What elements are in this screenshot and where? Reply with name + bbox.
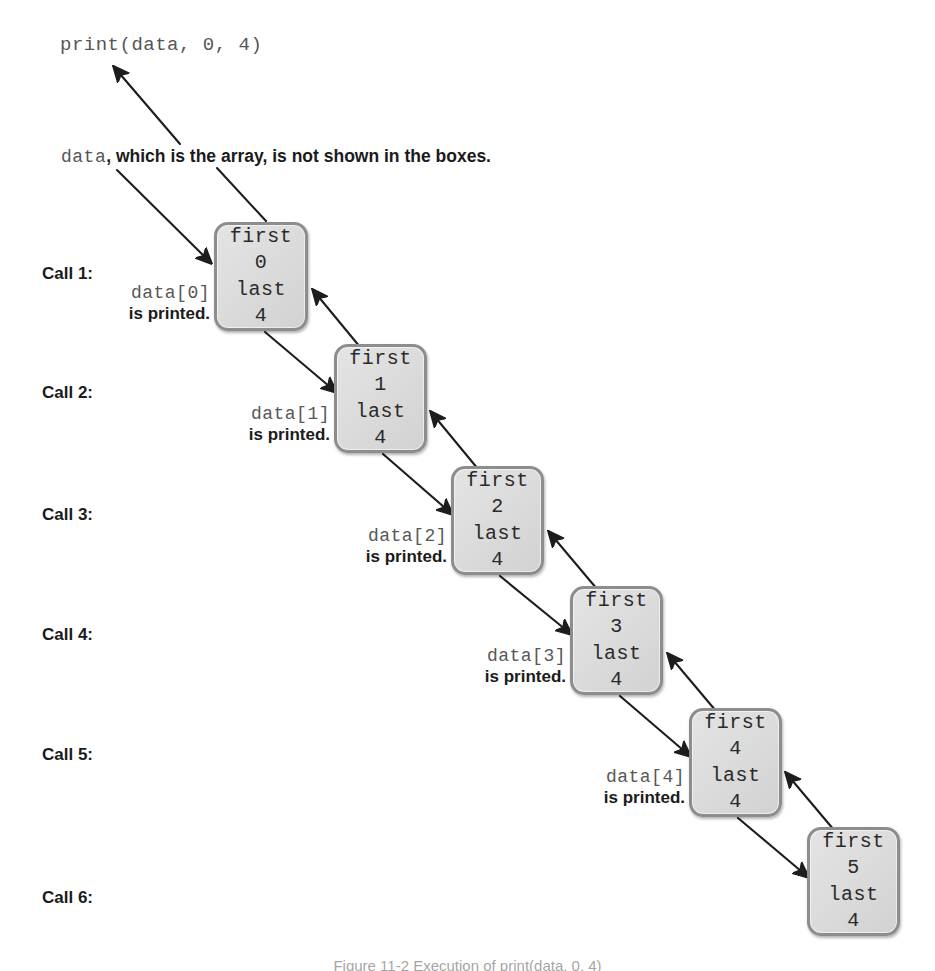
stack-frame-box-2: first 1 last 4	[334, 344, 427, 453]
printed-note-1: data[0] is printed.	[129, 283, 210, 324]
stack-frame-box-3: first 2 last 4	[451, 466, 544, 575]
arrow-call-down-4	[620, 696, 690, 756]
arrow-call-down-5	[738, 818, 808, 877]
call-label-3: Call 3:	[42, 505, 93, 525]
arrow-return-up-4	[668, 654, 716, 711]
arrow-return-up-2	[431, 412, 478, 469]
recursion-trace-diagram: print(data, 0, 4) data, which is the arr…	[0, 0, 935, 971]
arrow-call-down-2	[383, 454, 452, 514]
printed-note-4-index: data[3]	[485, 646, 566, 667]
array-note-code: data	[61, 147, 106, 167]
printed-note-3-text: is printed.	[366, 547, 447, 567]
frame-2-first-value: 1	[374, 372, 387, 398]
frame-3-last-value: 4	[491, 547, 504, 573]
frame-4-first-value: 3	[610, 614, 623, 640]
call-label-1: Call 1:	[42, 264, 93, 284]
frame-1-last-label: last	[236, 277, 286, 303]
figure-caption: Figure 11-2 Execution of print(data, 0, …	[0, 957, 935, 971]
frame-4-last-value: 4	[610, 667, 623, 693]
frame-1-first-label: first	[230, 224, 293, 250]
frame-6-first-label: first	[822, 829, 885, 855]
frame-5-first-value: 4	[729, 736, 742, 762]
array-note-text: , which is the array, is not shown in th…	[106, 146, 491, 166]
array-note: data, which is the array, is not shown i…	[61, 148, 491, 166]
printed-note-5-index: data[4]	[604, 767, 685, 788]
arrow-return-up-1	[313, 290, 360, 347]
arrow-call-down-1	[265, 332, 336, 392]
printed-note-2: data[1] is printed.	[249, 404, 330, 445]
stack-frame-box-1: first 0 last 4	[214, 222, 308, 331]
arrow-return-up-5	[786, 773, 834, 830]
printed-note-4: data[3] is printed.	[485, 646, 566, 687]
printed-note-5: data[4] is printed.	[604, 767, 685, 808]
frame-2-first-label: first	[349, 346, 412, 372]
printed-note-5-text: is printed.	[604, 788, 685, 808]
frame-6-first-value: 5	[847, 855, 860, 881]
printed-note-2-text: is printed.	[249, 425, 330, 445]
arrow-call-down-3	[500, 576, 571, 634]
frame-5-first-label: first	[704, 710, 767, 736]
call-label-4: Call 4:	[42, 625, 93, 645]
frame-5-last-label: last	[710, 763, 760, 789]
frame-3-first-label: first	[466, 468, 529, 494]
printed-note-3: data[2] is printed.	[366, 526, 447, 567]
frame-2-last-label: last	[355, 399, 405, 425]
frame-1-first-value: 0	[255, 250, 268, 276]
printed-note-4-text: is printed.	[485, 667, 566, 687]
stack-frame-box-6: first 5 last 4	[807, 827, 900, 936]
frame-3-first-value: 2	[491, 494, 504, 520]
printed-note-3-index: data[2]	[366, 526, 447, 547]
arrow-to-print-call	[114, 67, 180, 144]
arrow-note-to-box1-top	[217, 168, 266, 221]
arrow-return-up-3	[549, 532, 597, 589]
frame-3-last-label: last	[472, 521, 522, 547]
call-label-5: Call 5:	[42, 745, 93, 765]
call-label-2: Call 2:	[42, 383, 93, 403]
call-label-6: Call 6:	[42, 888, 93, 908]
printed-note-1-index: data[0]	[129, 283, 210, 304]
frame-5-last-value: 4	[729, 789, 742, 815]
frame-6-last-label: last	[828, 882, 878, 908]
printed-note-1-text: is printed.	[129, 304, 210, 324]
stack-frame-box-4: first 3 last 4	[570, 586, 663, 695]
print-call-expression: print(data, 0, 4)	[60, 34, 262, 56]
arrow-note-to-box1-left	[117, 170, 211, 263]
printed-note-2-index: data[1]	[249, 404, 330, 425]
frame-6-last-value: 4	[847, 908, 860, 934]
frame-1-last-value: 4	[255, 303, 268, 329]
stack-frame-box-5: first 4 last 4	[689, 708, 782, 817]
frame-4-last-label: last	[591, 641, 641, 667]
frame-2-last-value: 4	[374, 425, 387, 451]
frame-4-first-label: first	[585, 588, 648, 614]
